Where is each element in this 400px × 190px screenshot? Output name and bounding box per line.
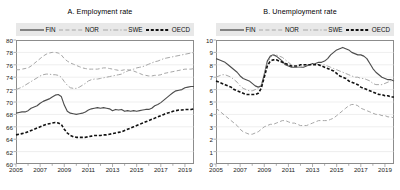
x-tick-label: 2019 — [178, 166, 192, 173]
y-tick-label: 68 — [6, 111, 13, 118]
legend-item-oecd: OECD — [346, 26, 390, 33]
x-tick-label: 2017 — [154, 166, 168, 173]
legend-label-oecd: OECD — [372, 26, 390, 33]
series-line-nor — [216, 104, 394, 134]
panel-a-plot-area — [16, 40, 194, 164]
y-tick-label: 7 — [210, 74, 213, 81]
series-line-fin — [216, 47, 394, 87]
y-tick-label: 3 — [210, 123, 213, 130]
y-tick-label: 76 — [6, 61, 13, 68]
y-tick-label: 62 — [6, 148, 13, 155]
legend-swatch-nor — [59, 27, 83, 33]
y-tick-label: 72 — [6, 86, 13, 93]
x-tick-label: 2007 — [233, 166, 247, 173]
legend-item-oecd: OECD — [146, 26, 190, 33]
y-tick-label: 70 — [6, 99, 13, 106]
legend-swatch-oecd — [146, 27, 170, 33]
legend-swatch-nor — [259, 27, 283, 33]
legend-item-nor: NOR — [59, 26, 99, 33]
y-tick-label: 2 — [210, 136, 213, 143]
panel-unemployment-rate: B. Unemployment rate FIN NOR SWE OECD 01… — [200, 0, 400, 190]
legend-label-fin: FIN — [46, 26, 56, 33]
x-tick-label: 2005 — [9, 166, 23, 173]
panel-b-title: B. Unemployment rate — [200, 7, 400, 16]
series-line-nor — [16, 52, 194, 76]
legend-label-swe: SWE — [328, 26, 342, 33]
legend-label-swe: SWE — [128, 26, 142, 33]
y-tick-label: 6 — [210, 86, 213, 93]
series-line-swe — [16, 52, 194, 89]
panel-a-y-axis: 6062646668707274767880 — [0, 40, 14, 164]
y-tick-label: 80 — [6, 37, 13, 44]
y-tick-label: 4 — [210, 111, 213, 118]
legend-item-fin: FIN — [220, 26, 256, 33]
x-tick-label: 2005 — [209, 166, 223, 173]
panel-b-lines — [216, 40, 394, 164]
legend-swatch-oecd — [346, 27, 370, 33]
x-tick-label: 2009 — [257, 166, 271, 173]
legend-swatch-swe — [303, 27, 327, 33]
series-line-fin — [16, 87, 194, 115]
panel-a-lines — [16, 40, 194, 164]
y-tick-label: 74 — [6, 74, 13, 81]
y-tick-label: 66 — [6, 123, 13, 130]
x-tick-label: 2011 — [82, 166, 95, 173]
panel-a-x-axis: 20052007200920112013201520172019 — [16, 166, 194, 180]
x-tick-label: 2013 — [106, 166, 120, 173]
x-tick-label: 2017 — [354, 166, 368, 173]
legend-panel-a: FIN NOR SWE OECD — [16, 23, 194, 36]
legend-item-nor: NOR — [259, 26, 299, 33]
legend-swatch-fin — [20, 27, 44, 33]
legend-label-nor: NOR — [285, 26, 299, 33]
y-tick-label: 8 — [210, 61, 213, 68]
legend-swatch-fin — [220, 27, 244, 33]
legend-label-fin: FIN — [246, 26, 256, 33]
y-tick-label: 9 — [210, 49, 213, 56]
panel-a-title: A. Employment rate — [0, 7, 200, 16]
legend-label-oecd: OECD — [172, 26, 190, 33]
series-line-oecd — [16, 109, 194, 138]
legend-swatch-swe — [103, 27, 127, 33]
x-tick-label: 2007 — [33, 166, 47, 173]
legend-item-swe: SWE — [303, 26, 343, 33]
legend-item-swe: SWE — [103, 26, 143, 33]
x-tick-label: 2011 — [282, 166, 295, 173]
legend-panel-b: FIN NOR SWE OECD — [216, 23, 394, 36]
y-tick-label: 10 — [206, 37, 213, 44]
legend-label-nor: NOR — [85, 26, 99, 33]
y-tick-label: 1 — [210, 148, 213, 155]
panel-b-y-axis: 012345678910 — [200, 40, 214, 164]
x-tick-label: 2013 — [306, 166, 320, 173]
y-tick-label: 5 — [210, 99, 213, 106]
y-tick-label: 64 — [6, 136, 13, 143]
legend-item-fin: FIN — [20, 26, 56, 33]
x-tick-label: 2019 — [378, 166, 392, 173]
panel-b-plot-area — [216, 40, 394, 164]
x-tick-label: 2015 — [130, 166, 144, 173]
y-tick-label: 78 — [6, 49, 13, 56]
two-panel-line-chart-figure: A. Employment rate FIN NOR SWE OECD 6062… — [0, 0, 400, 190]
panel-employment-rate: A. Employment rate FIN NOR SWE OECD 6062… — [0, 0, 200, 190]
x-tick-label: 2015 — [330, 166, 344, 173]
panel-b-x-axis: 20052007200920112013201520172019 — [216, 166, 394, 180]
x-tick-label: 2009 — [57, 166, 71, 173]
